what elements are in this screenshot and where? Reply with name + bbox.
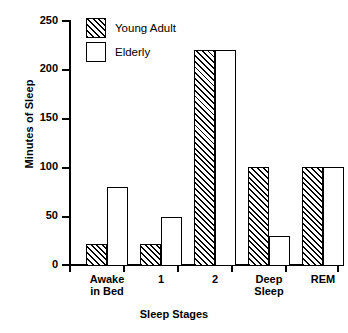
legend-item-elderly: Elderly	[86, 41, 176, 63]
x-tick-mark-4	[285, 266, 287, 272]
x-axis-title: Sleep Stages	[0, 308, 348, 320]
white-swatch-icon	[86, 42, 106, 62]
y-tick-mark-50	[62, 216, 69, 218]
x-tick-label-line2: Sleep	[224, 286, 314, 298]
bar-young-adult-stage-1	[140, 244, 161, 266]
x-tick-mark-0	[69, 266, 71, 272]
legend-label-elderly: Elderly	[115, 46, 150, 58]
y-tick-mark-250	[62, 20, 69, 22]
y-tick-label-50: 50	[26, 210, 58, 221]
x-tick-label-line1: 2	[212, 273, 218, 285]
legend-label-young-adult: Young Adult	[115, 22, 176, 34]
y-tick-mark-0	[62, 264, 69, 266]
y-tick-label-150: 150	[26, 112, 58, 123]
x-tick-mark-1	[123, 266, 125, 272]
y-tick-label-250: 250	[26, 15, 58, 26]
chart-legend: Young Adult Elderly	[86, 17, 176, 65]
y-tick-mark-200	[62, 69, 69, 71]
bar-young-adult-stage-2	[194, 50, 215, 266]
bar-young-adult-rem	[302, 167, 323, 266]
bar-young-adult-awake-in-bed	[86, 244, 107, 266]
bar-young-adult-deep-sleep	[248, 167, 269, 266]
y-tick-mark-100	[62, 167, 69, 169]
bar-elderly-stage-1	[161, 217, 182, 266]
x-tick-mark-2	[177, 266, 179, 272]
legend-item-young-adult: Young Adult	[86, 17, 176, 39]
sleep-stages-bar-chart: Minutes of Sleep 250 200 150 100 50 0 Aw…	[0, 0, 348, 333]
y-tick-label-200: 200	[26, 63, 58, 74]
y-tick-label-100: 100	[26, 161, 58, 172]
bar-elderly-rem	[323, 167, 344, 266]
hatched-swatch-icon	[86, 18, 106, 38]
x-tick-label-line1: 1	[158, 273, 164, 285]
y-axis-line	[69, 20, 71, 266]
bar-elderly-stage-2	[215, 50, 236, 266]
x-tick-label-line2: in Bed	[62, 286, 152, 298]
bar-elderly-awake-in-bed	[107, 187, 128, 266]
x-tick-label-rem: REM	[278, 274, 348, 286]
y-tick-mark-150	[62, 118, 69, 120]
y-tick-label-0: 0	[26, 259, 58, 270]
bar-elderly-deep-sleep	[269, 236, 290, 266]
x-tick-mark-3	[231, 266, 233, 272]
x-tick-mark-5	[337, 266, 339, 272]
x-tick-label-line1: REM	[311, 273, 335, 285]
